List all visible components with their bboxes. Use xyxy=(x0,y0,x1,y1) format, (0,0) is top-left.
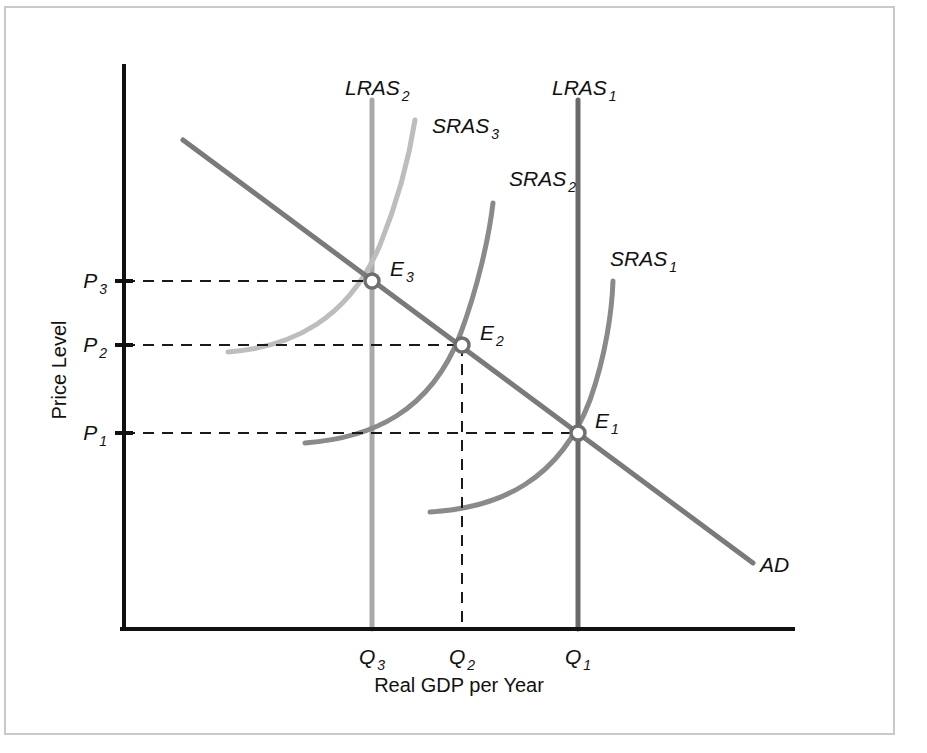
x-tick-label-3: Q1 xyxy=(565,645,591,673)
y-tick-label-3: P1 xyxy=(83,421,107,449)
guide-lines-group xyxy=(124,281,578,629)
equilibrium-label-E1: E1 xyxy=(595,409,619,437)
curve-label-SRAS3: SRAS3 xyxy=(432,114,499,142)
curve-label-AD: AD xyxy=(758,553,789,576)
curve-label-SRAS1: SRAS1 xyxy=(610,247,677,275)
equilibrium-point-E1 xyxy=(571,426,585,440)
curve-label-LRAS1: LRAS1 xyxy=(552,76,617,104)
x-tick-label-2: Q2 xyxy=(449,645,475,673)
x-tick-label-1: Q3 xyxy=(359,645,385,673)
curve-SRAS1 xyxy=(430,281,613,512)
y-tick-label-2: P2 xyxy=(83,333,107,361)
x-axis-title: Real GDP per Year xyxy=(374,674,544,696)
curve-label-LRAS2: LRAS2 xyxy=(345,76,410,104)
ad-as-diagram: ADLRAS1LRAS2SRAS1SRAS2SRAS3E1E2E3P3P2P1Q… xyxy=(0,0,927,753)
equilibrium-point-E3 xyxy=(365,274,379,288)
curve-SRAS3 xyxy=(228,120,415,352)
equilibrium-label-E2: E2 xyxy=(480,321,504,349)
curve-label-SRAS2: SRAS2 xyxy=(509,167,576,195)
labels-group: ADLRAS1LRAS2SRAS1SRAS2SRAS3E1E2E3P3P2P1Q… xyxy=(83,76,789,673)
curve-SRAS2 xyxy=(305,203,493,443)
y-tick-label-1: P3 xyxy=(83,269,107,297)
curves-group xyxy=(183,100,753,629)
y-axis-title: Price Level xyxy=(48,321,70,420)
figure-page: ADLRAS1LRAS2SRAS1SRAS2SRAS3E1E2E3P3P2P1Q… xyxy=(0,0,927,753)
equilibrium-point-E2 xyxy=(455,338,469,352)
equilibrium-label-E3: E3 xyxy=(390,257,414,285)
curve-AD xyxy=(183,140,753,563)
